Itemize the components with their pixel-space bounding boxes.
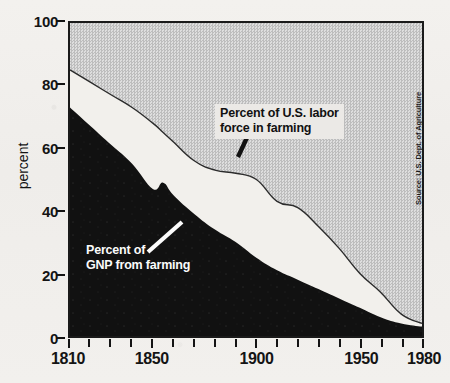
x-axis-ticks	[68, 339, 424, 348]
y-tick-label-40: 40	[16, 203, 58, 220]
gnp-annotation: Percent of GNP from farming	[86, 243, 190, 273]
x-tick-mark	[297, 339, 299, 347]
x-tick-mark	[402, 339, 404, 347]
x-tick-mark	[109, 339, 111, 347]
plot-area	[68, 21, 424, 338]
source-note: Source: U.S. Dept. of Agriculture	[414, 92, 423, 205]
x-tick-mark	[151, 339, 153, 348]
labor-force-annotation-line-2: force in farming	[220, 121, 339, 136]
x-tick-mark	[381, 339, 383, 347]
x-tick-mark	[276, 339, 278, 347]
y-tick-label-80: 80	[16, 76, 58, 93]
gnp-annotation-line-1: Percent of	[86, 243, 190, 258]
x-tick-mark	[360, 339, 362, 348]
y-axis-title: percent	[15, 131, 31, 201]
x-tick-mark	[235, 339, 237, 347]
labor-force-annotation: Percent of U.S. labor force in farming	[215, 104, 344, 139]
labor-force-annotation-line-1: Percent of U.S. labor	[220, 106, 339, 121]
x-tick-mark	[172, 339, 174, 347]
y-tick-label-0: 0	[16, 330, 58, 347]
x-tick-mark	[422, 339, 424, 348]
y-tick-label-20: 20	[16, 266, 58, 283]
x-axis-labels: 18101850190019501980	[68, 350, 424, 376]
x-tick-mark	[193, 339, 195, 347]
chart-screenshot: 100 80 60 40 20 0 percent	[0, 0, 450, 383]
x-tick-mark	[88, 339, 90, 347]
x-tick-label-1810: 1810	[51, 350, 85, 368]
chart-svg	[70, 23, 422, 336]
x-tick-label-1850: 1850	[135, 350, 169, 368]
x-tick-mark	[214, 339, 216, 347]
y-tick-label-100: 100	[16, 13, 58, 30]
x-tick-mark	[255, 339, 257, 348]
x-tick-label-1980: 1980	[407, 350, 441, 368]
x-tick-label-1900: 1900	[239, 350, 273, 368]
x-tick-label-1950: 1950	[344, 350, 378, 368]
x-tick-mark	[68, 339, 70, 348]
gnp-annotation-line-2: GNP from farming	[86, 258, 190, 273]
x-tick-mark	[339, 339, 341, 347]
x-tick-mark	[318, 339, 320, 347]
x-tick-mark	[130, 339, 132, 347]
